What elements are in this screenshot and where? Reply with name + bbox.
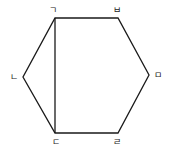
hexagon-diagram: ㄱ ㅂ ㅁ ㄹ ㄷ ㄴ bbox=[0, 0, 172, 152]
hexagon-outline bbox=[23, 18, 149, 133]
vertex-label-bieup: ㅂ bbox=[113, 5, 121, 15]
vertex-label-digeut: ㄷ bbox=[52, 137, 60, 147]
vertex-label-mieum: ㅁ bbox=[154, 70, 162, 80]
vertex-label-rieul: ㄹ bbox=[113, 137, 121, 147]
vertex-label-giyeok: ㄱ bbox=[49, 5, 57, 15]
vertex-label-nieun: ㄴ bbox=[10, 72, 18, 82]
